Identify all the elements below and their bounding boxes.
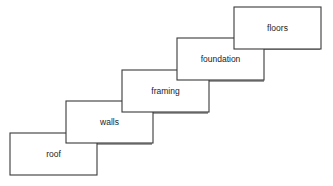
diagram-canvas: roof walls framing foundation floors — [0, 0, 333, 186]
stage-label-walls: walls — [99, 117, 119, 127]
stage-label-framing: framing — [151, 86, 180, 96]
stage-label-foundation: foundation — [201, 54, 241, 64]
stage-label-floors: floors — [267, 23, 288, 33]
stage-label-roof: roof — [46, 149, 61, 159]
staircase-diagram: roof walls framing foundation floors — [0, 0, 333, 186]
stage-box-floors[interactable]: floors — [234, 7, 321, 49]
